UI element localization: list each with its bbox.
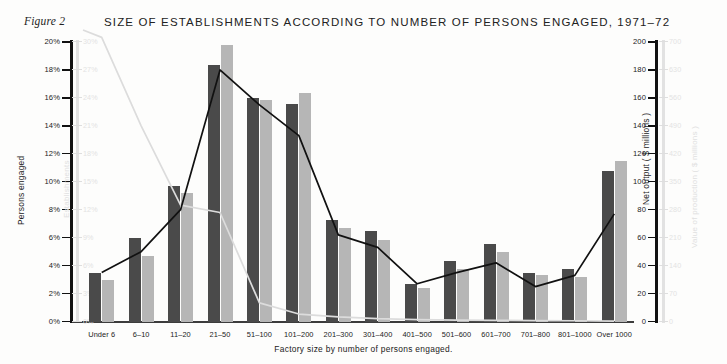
tick-label-right-secondary: 560 — [669, 93, 681, 102]
tick-label-left-primary: 8% — [20, 205, 60, 214]
bar-persons-engaged — [208, 65, 220, 322]
tick-right-primary — [648, 97, 658, 98]
chart-figure: Figure 2 SIZE OF ESTABLISHMENTS ACCORDIN… — [0, 0, 727, 364]
bar-group — [128, 42, 154, 322]
bar-persons-engaged — [247, 98, 259, 322]
bar-value-of-production — [142, 256, 154, 322]
tick-left-primary — [62, 321, 72, 322]
tick-label-right-secondary: 350 — [669, 177, 681, 186]
bar-persons-engaged — [89, 273, 101, 322]
tick-left-primary — [62, 153, 72, 154]
bar-group — [207, 42, 233, 322]
y-axis-left-secondary-title: Establishments — [62, 160, 71, 218]
tick-left-primary — [62, 69, 72, 70]
tick-left-primary — [62, 41, 72, 42]
bar-persons-engaged — [129, 238, 141, 322]
tick-left-primary — [62, 265, 72, 266]
bar-group — [89, 42, 115, 322]
bar-group — [404, 42, 430, 322]
tick-right-secondary — [659, 237, 668, 238]
bar-group — [562, 42, 588, 322]
bar-value-of-production — [457, 269, 469, 322]
tick-right-secondary — [659, 293, 668, 294]
bar-value-of-production — [497, 252, 509, 322]
tick-right-secondary — [659, 97, 668, 98]
bar-value-of-production — [536, 275, 548, 323]
bar-group — [444, 42, 470, 322]
tick-label-left-primary: 10% — [20, 177, 60, 186]
chart-title: SIZE OF ESTABLISHMENTS ACCORDING TO NUMB… — [104, 16, 670, 28]
x-axis-category-label: Over 1000 — [586, 330, 642, 339]
tick-right-secondary — [659, 321, 668, 322]
bar-value-of-production — [615, 161, 627, 322]
bar-value-of-production — [102, 280, 114, 322]
tick-right-primary — [648, 321, 658, 322]
tick-right-secondary — [659, 265, 668, 266]
tick-label-left-primary: 18% — [20, 65, 60, 74]
plot-area — [72, 42, 634, 322]
y-axis-right-title: Net output ( $ millions ) — [641, 113, 651, 205]
tick-label-right-secondary: 0 — [669, 317, 673, 326]
bar-value-of-production — [181, 193, 193, 322]
tick-right-secondary — [659, 125, 668, 126]
tick-label-left-primary: 2% — [20, 289, 60, 298]
tick-label-right-secondary: 700 — [669, 37, 681, 46]
tick-label-right-secondary: 280 — [669, 205, 681, 214]
bar-value-of-production — [418, 288, 430, 322]
tick-label-left-primary: 0% — [20, 317, 60, 326]
bar-persons-engaged — [602, 171, 614, 322]
tick-right-primary — [648, 209, 658, 210]
bar-persons-engaged — [523, 273, 535, 322]
bar-persons-engaged — [365, 231, 377, 322]
bar-value-of-production — [378, 240, 390, 322]
bar-group — [483, 42, 509, 322]
bar-value-of-production — [221, 45, 233, 322]
tick-right-primary — [648, 237, 658, 238]
bar-persons-engaged — [405, 284, 417, 322]
bar-group — [601, 42, 627, 322]
tick-right-primary — [648, 293, 658, 294]
tick-right-secondary — [659, 69, 668, 70]
bar-persons-engaged — [444, 261, 456, 322]
bar-group — [286, 42, 312, 322]
tick-label-right-secondary: 210 — [669, 233, 681, 242]
bar-value-of-production — [339, 228, 351, 322]
bar-persons-engaged — [484, 244, 496, 322]
tick-label-left-primary: 16% — [20, 93, 60, 102]
tick-label-right-secondary: 420 — [669, 149, 681, 158]
y-axis-right-secondary-title: Value of production ( $ millions ) — [690, 126, 699, 248]
tick-label-left-primary: 12% — [20, 149, 60, 158]
tick-label-left-primary: 4% — [20, 261, 60, 270]
bar-persons-engaged — [168, 186, 180, 322]
bar-persons-engaged — [326, 220, 338, 322]
bar-value-of-production — [260, 100, 272, 322]
bar-persons-engaged — [562, 269, 574, 322]
figure-label: Figure 2 — [24, 15, 65, 27]
tick-right-secondary — [659, 181, 668, 182]
bar-group — [365, 42, 391, 322]
tick-left-primary — [62, 237, 72, 238]
bar-group — [246, 42, 272, 322]
bar-group — [168, 42, 194, 322]
bar-value-of-production — [299, 93, 311, 322]
tick-left-primary — [62, 293, 72, 294]
tick-label-left-primary: 6% — [20, 233, 60, 242]
y-axis-left-title: Persons engaged — [16, 156, 26, 225]
tick-right-secondary — [659, 209, 668, 210]
tick-label-left-primary: 20% — [20, 37, 60, 46]
tick-left-primary — [62, 125, 72, 126]
tick-right-primary — [648, 69, 658, 70]
bar-group — [325, 42, 351, 322]
x-axis-title: Factory size by number of persons engage… — [0, 344, 727, 354]
tick-right-primary — [648, 265, 658, 266]
tick-label-right-secondary: 70 — [669, 289, 677, 298]
tick-label-right-secondary: 630 — [669, 65, 681, 74]
tick-right-secondary — [659, 41, 668, 42]
tick-right-secondary — [659, 153, 668, 154]
tick-right-primary — [648, 41, 658, 42]
tick-left-primary — [62, 97, 72, 98]
tick-label-left-primary: 14% — [20, 121, 60, 130]
bar-group — [522, 42, 548, 322]
tick-label-right-secondary: 140 — [669, 261, 681, 270]
bar-persons-engaged — [286, 104, 298, 322]
